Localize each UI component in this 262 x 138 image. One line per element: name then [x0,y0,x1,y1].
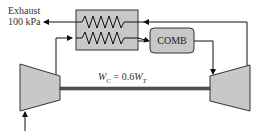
combustor-label: COMB [150,28,194,53]
exhaust-label-line1: Exhaust [8,5,41,16]
compressor [20,64,60,111]
regenerative-gas-turbine-diagram: Exhaust 100 kPa COMB WC = 0.6WT [0,0,262,138]
shaft [60,87,210,90]
work-relation-label: WC = 0.6WT [98,71,146,85]
heat-exchanger [76,10,138,50]
exhaust-label-line2: 100 kPa [8,16,41,27]
turbine-work-symbol: W [134,71,142,82]
compressor-outlet-line [56,38,72,76]
combustor-to-turbine-line [194,41,213,74]
turbine-work-subscript: T [143,77,147,85]
work-ratio: = 0.6 [111,71,134,82]
exhaust-label: Exhaust 100 kPa [8,5,41,27]
turbine [210,65,250,111]
